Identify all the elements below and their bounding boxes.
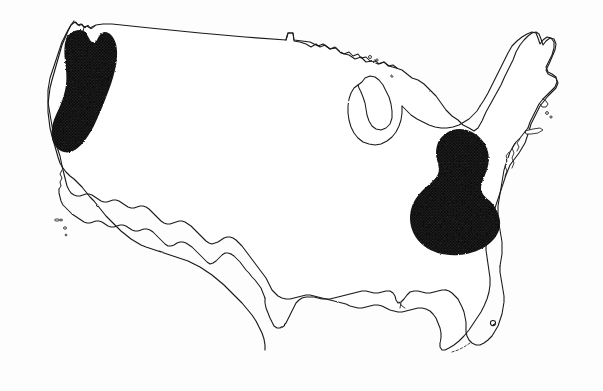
us-outline-map-figure xyxy=(0,0,603,391)
national-border-outline xyxy=(48,22,558,350)
map-canvas xyxy=(0,0,603,391)
channel-islands xyxy=(55,219,67,236)
